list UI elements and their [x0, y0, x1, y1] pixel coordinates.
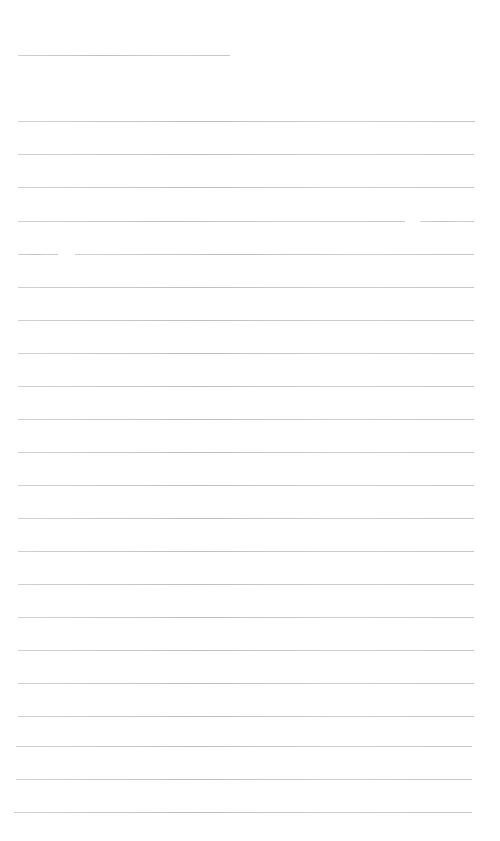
ruled-line: [18, 154, 474, 155]
ruled-line: [18, 254, 58, 255]
ruled-line: [18, 584, 474, 585]
ruled-line: [420, 221, 474, 222]
ruled-line: [14, 812, 472, 813]
ruled-line: [18, 353, 474, 354]
ruled-line: [18, 683, 474, 684]
ruled-line: [18, 320, 474, 321]
header-rule-line: [18, 55, 230, 56]
ruled-line: [18, 716, 474, 717]
ruled-line: [18, 617, 474, 618]
ruled-line: [18, 287, 474, 288]
ruled-line: [18, 485, 474, 486]
ruled-line: [16, 746, 472, 747]
ruled-line: [18, 650, 474, 651]
ruled-line: [18, 187, 474, 188]
ruled-line: [16, 779, 472, 780]
ruled-line: [75, 254, 474, 255]
ruled-line: [18, 518, 474, 519]
ruled-line: [18, 452, 474, 453]
ruled-line: [18, 419, 474, 420]
ruled-line: [18, 551, 474, 552]
ruled-line: [18, 221, 405, 222]
ruled-line: [18, 386, 474, 387]
ruled-line: [18, 121, 475, 122]
